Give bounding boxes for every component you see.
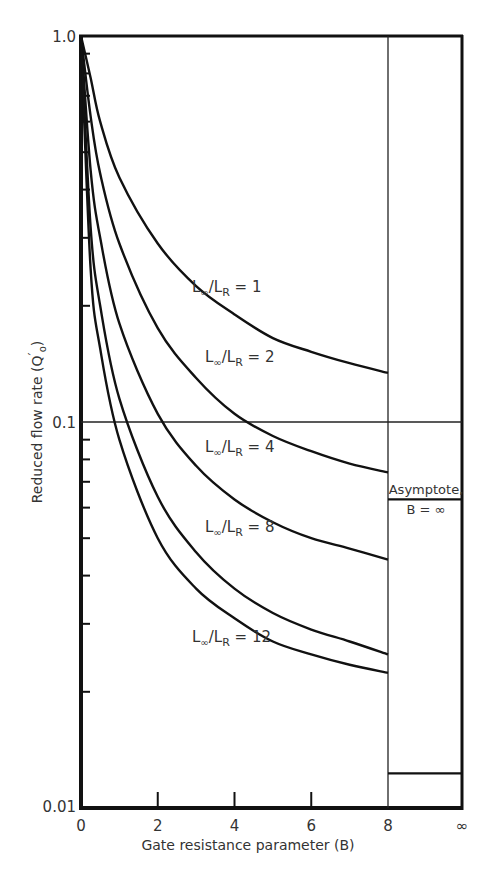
curve-label: L∞/LR = 1 <box>192 278 261 299</box>
curve-label: L∞/LR = 4 <box>205 438 274 459</box>
x-tick-labels: 02468∞ <box>76 817 468 835</box>
x-tick-label: 2 <box>153 817 163 835</box>
plot-frame <box>79 35 463 810</box>
x-tick-label: 8 <box>383 817 393 835</box>
curve-label: L∞/LR = 12 <box>192 628 271 649</box>
x-major-ticks <box>158 792 312 808</box>
y-axis-title: Reduced flow rate (Q′o) <box>25 341 48 504</box>
asymptote-label-line1: Asymptote, <box>389 482 464 497</box>
y-tick-label-0.01: 0.01 <box>43 798 76 816</box>
curve <box>81 36 388 373</box>
curve-label: L∞/LR = 8 <box>205 518 274 539</box>
curve <box>81 36 388 472</box>
x-tick-label: 6 <box>306 817 316 835</box>
asymptote-label-line2: B = ∞ <box>407 502 446 517</box>
asymptote-column: Asymptote, B = ∞ <box>388 482 463 773</box>
y-tick-label-0.1: 0.1 <box>52 414 76 432</box>
flow-rate-chart: 1.0 0.1 0.01 02468∞ Gate resistance para… <box>0 0 497 885</box>
curve-labels: L∞/LR = 1L∞/LR = 2L∞/LR = 4L∞/LR = 8L∞/L… <box>192 278 274 649</box>
x-tick-label: 4 <box>230 817 240 835</box>
x-tick-label: ∞ <box>456 817 469 835</box>
y-tick-label-1.0: 1.0 <box>52 28 76 46</box>
x-tick-label: 0 <box>76 817 86 835</box>
x-axis-title: Gate resistance parameter (B) <box>141 837 354 853</box>
curve-label: L∞/LR = 2 <box>205 348 274 369</box>
curve <box>81 36 388 560</box>
